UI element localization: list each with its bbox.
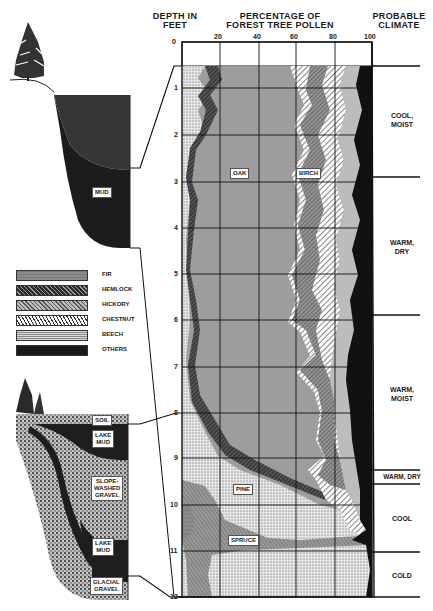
legend-item-hemlock: HEMLOCK — [16, 285, 96, 295]
climate-cool: COOL — [374, 514, 430, 523]
legend-label: OTHERS — [102, 346, 127, 352]
y-tick-4: 4 — [174, 224, 178, 231]
label-line: GRAVEL — [94, 492, 120, 499]
label-line: GLACIAL — [93, 579, 120, 586]
y-tick-6: 6 — [174, 316, 178, 323]
climate-cold: COLD — [374, 571, 430, 580]
climate-label-line: COLD — [374, 571, 430, 580]
y-tick-1: 1 — [174, 84, 178, 91]
label-line: GRAVEL — [93, 586, 120, 593]
legend-label: FIR — [102, 271, 112, 277]
y-tick-10: 10 — [170, 501, 178, 508]
climate-cool-moist: COOL, MOIST — [374, 111, 430, 129]
y-tick-5: 5 — [174, 270, 178, 277]
legend-item-chestnut: CHESTNUT — [16, 315, 96, 325]
label-line: MUD — [95, 439, 111, 446]
birch-label: BIRCH — [296, 168, 321, 179]
soil-label: SOIL — [92, 415, 112, 426]
label-line: LAKE — [95, 432, 111, 439]
legend-label: CHESTNUT — [102, 316, 135, 322]
y-tick-7: 7 — [174, 363, 178, 370]
fir-swatch-icon — [16, 270, 88, 281]
label-line: MUD — [95, 547, 111, 554]
climate-label-line: COOL — [374, 514, 430, 523]
pollen-title-line2: FOREST TREE POLLEN — [200, 21, 360, 30]
y-tick-0: 0 — [172, 38, 176, 45]
climate-label-line: WARM, DRY — [374, 472, 430, 481]
climate-label-line: COOL, — [374, 111, 430, 120]
legend-item-beech: BEECH — [16, 330, 96, 340]
y-tick-3: 3 — [174, 178, 178, 185]
x-tick-100: 100 — [364, 33, 376, 40]
lake-mud-upper-label: LAKE MUD — [92, 430, 114, 448]
climate-column-title: PROBABLE CLIMATE — [365, 12, 433, 30]
climate-label-line: WARM, — [374, 385, 430, 394]
x-tick-60: 60 — [290, 33, 298, 40]
y-tick-9: 9 — [174, 454, 178, 461]
spruce-label: SPRUCE — [228, 535, 259, 546]
legend-item-hickory: HICKORY — [16, 300, 96, 310]
slope-washed-gravel-label: SLOPE- WASHED GRAVEL — [91, 476, 123, 501]
y-tick-11: 11 — [170, 547, 177, 554]
hemlock-swatch-icon — [16, 285, 88, 296]
x-tick-20: 20 — [214, 33, 222, 40]
label-line: LAKE — [95, 540, 111, 547]
pine-label: PINE — [233, 484, 253, 495]
legend-label: HEMLOCK — [102, 286, 132, 292]
x-tick-40: 40 — [253, 33, 261, 40]
y-tick-12: 12 — [170, 593, 178, 600]
lake-cross-section-top — [10, 22, 130, 248]
y-tick-2: 2 — [174, 131, 178, 138]
climate-warm-dry: WARM, DRY — [374, 238, 430, 256]
climate-label-line: MOIST — [374, 394, 430, 403]
pollen-axis-title: PERCENTAGE OF FOREST TREE POLLEN — [200, 12, 360, 30]
glacial-gravel-label: GLACIAL GRAVEL — [90, 577, 123, 595]
x-tick-80: 80 — [329, 33, 337, 40]
legend-label: HICKORY — [102, 301, 129, 307]
y-tick-8: 8 — [174, 409, 178, 416]
tree-icon — [14, 22, 44, 81]
mud-label: MUD — [92, 187, 112, 198]
climate-label-line: MOIST — [374, 120, 430, 129]
legend-label: BEECH — [102, 331, 123, 337]
legend-item-fir: FIR — [16, 270, 96, 280]
climate-label-line: WARM, — [374, 238, 430, 247]
climate-label-line: DRY — [374, 247, 430, 256]
lake-mud-lower-label: LAKE MUD — [92, 538, 114, 556]
beech-swatch-icon — [16, 330, 88, 341]
climate-title-line2: CLIMATE — [365, 21, 433, 30]
others-swatch-icon — [16, 345, 88, 356]
legend-item-others: OTHERS — [16, 345, 96, 355]
chestnut-swatch-icon — [16, 315, 88, 326]
hickory-swatch-icon — [16, 300, 88, 311]
label-line: SLOPE- — [94, 478, 120, 485]
label-line: WASHED — [94, 485, 120, 492]
climate-warm-dry-short: WARM, DRY — [374, 472, 430, 481]
oak-label: OAK — [230, 168, 249, 179]
climate-warm-moist: WARM, MOIST — [374, 385, 430, 403]
